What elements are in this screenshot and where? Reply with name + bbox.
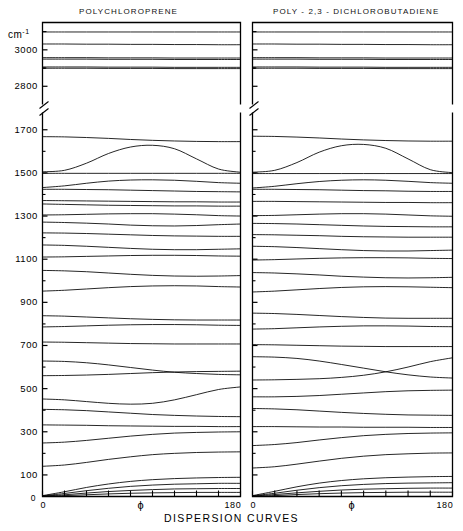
dispersion-curve <box>43 387 241 404</box>
dispersion-curve <box>253 201 453 202</box>
dispersion-curve <box>43 255 241 257</box>
dispersion-curve <box>253 326 453 329</box>
dispersion-curve <box>43 201 241 203</box>
dispersion-curve <box>253 273 453 278</box>
dispersion-curve <box>253 144 453 172</box>
dispersion-curve <box>43 245 241 250</box>
y-tick-label: 500 <box>0 383 38 394</box>
dispersion-curve <box>253 189 453 191</box>
dispersion-curve <box>43 432 241 443</box>
y-tick-label: 300 <box>0 426 38 437</box>
x-min-label: 0 <box>251 500 257 510</box>
dispersion-curve <box>253 258 453 260</box>
y-tick-label: 2800 <box>0 80 38 91</box>
dispersion-curve <box>43 222 241 226</box>
dispersion-curve <box>43 233 241 236</box>
dispersion-curve <box>253 313 453 318</box>
dispersion-curve <box>43 180 241 188</box>
dispersion-curve <box>253 390 453 397</box>
dispersion-curve <box>253 246 453 251</box>
dispersion-curve <box>253 427 453 428</box>
dispersion-curve <box>43 452 241 466</box>
dispersion-curve <box>253 235 453 238</box>
x-max-label: 180 <box>437 500 454 510</box>
dispersion-curve <box>43 425 241 427</box>
dispersion-curve <box>43 371 241 376</box>
dispersion-curve <box>43 214 241 216</box>
plot-canvas <box>0 0 463 531</box>
dispersion-curve <box>253 357 453 378</box>
axis-break-symbol <box>40 102 49 116</box>
y-tick-label: 900 <box>0 296 38 307</box>
x-max-label: 180 <box>225 500 242 510</box>
figure-caption: DISPERSION CURVES <box>0 512 463 524</box>
y-tick-label: 1300 <box>0 210 38 221</box>
x-axis-label: ϕ <box>349 499 356 511</box>
dispersion-curve <box>43 145 241 172</box>
dispersion-curve <box>253 223 453 226</box>
dispersion-curve <box>43 270 241 276</box>
curve-group-right <box>253 32 453 496</box>
y-tick-label: 100 <box>0 469 38 480</box>
dispersion-curve <box>43 204 241 206</box>
x-axis-label: ϕ <box>138 499 145 511</box>
dispersion-curve <box>253 136 453 141</box>
dispersion-curve <box>253 180 453 188</box>
dispersion-curve <box>253 44 453 45</box>
dispersion-curve <box>253 287 453 292</box>
dispersion-curve <box>253 345 453 347</box>
dispersion-curve <box>43 342 241 344</box>
dispersion-curve <box>253 453 453 468</box>
x-min-label: 0 <box>41 500 47 510</box>
dispersion-curve <box>253 433 453 446</box>
y-zero-label: 0 <box>0 493 36 503</box>
y-tick-label: 1100 <box>0 253 38 264</box>
dispersion-curve <box>43 44 241 45</box>
axis-break-symbol <box>250 102 259 116</box>
dispersion-curve <box>43 316 241 320</box>
dispersion-curve <box>43 325 241 327</box>
dispersion-curve <box>43 189 241 192</box>
dispersion-curve <box>253 408 453 415</box>
dispersion-curves-figure: POLYCHLOROPRENE POLY - 2,3 - DICHLOROBUT… <box>0 0 463 531</box>
y-tick-label: 700 <box>0 339 38 350</box>
y-tick-label: 1500 <box>0 167 38 178</box>
dispersion-curve <box>43 286 241 291</box>
curve-group-left <box>43 32 241 496</box>
dispersion-curve <box>43 409 241 416</box>
y-tick-label: 3000 <box>0 44 38 55</box>
y-tick-label: 1700 <box>0 124 38 135</box>
dispersion-curve <box>253 214 453 217</box>
dispersion-curve <box>43 137 241 142</box>
